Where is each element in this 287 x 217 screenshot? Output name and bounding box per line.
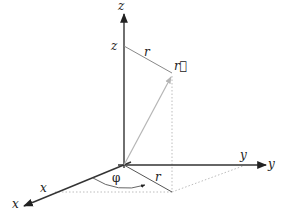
y-axis-label: y <box>267 157 275 171</box>
z-tick-label: z <box>110 39 118 53</box>
z-axis-label: z <box>117 0 125 13</box>
x-tick-label: x <box>40 181 47 195</box>
phi-label: φ <box>112 171 120 185</box>
projection-y-dotted <box>172 166 243 192</box>
position-vector <box>124 77 171 165</box>
vector-label: r⃗ <box>174 59 187 73</box>
cylindrical-coordinates-diagram: z z r r⃗ y y x x φ r <box>0 0 287 217</box>
radius-label-bottom: r <box>155 170 162 184</box>
x-axis-label: x <box>12 197 19 211</box>
y-tick-label: y <box>239 148 247 162</box>
radius-label-top: r <box>144 45 151 59</box>
